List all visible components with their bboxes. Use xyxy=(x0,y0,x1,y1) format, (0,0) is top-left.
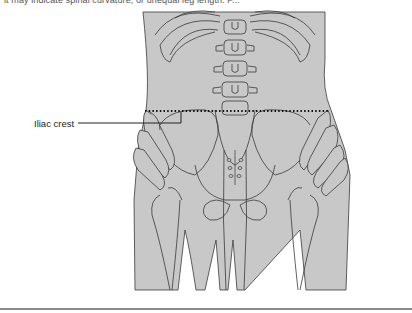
iliac-crest-label: Iliac crest xyxy=(34,118,74,129)
